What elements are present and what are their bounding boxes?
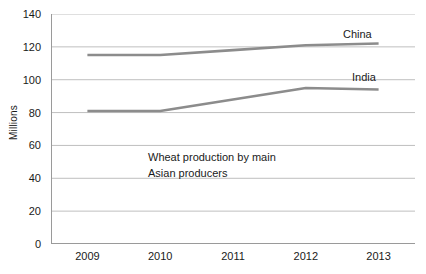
y-tick-label-140: 140 [0,9,46,20]
x-tick-label-2011: 2011 [197,249,270,269]
y-tick-label-120: 120 [0,41,46,52]
plot-area: China India Wheat production by main Asi… [51,14,415,244]
x-tick-label-2013: 2013 [342,249,415,269]
y-tick-label-40: 40 [0,173,46,184]
plot-svg [51,14,415,244]
y-tick-label-0: 0 [0,239,46,250]
chart-annotation: Wheat production by main Asian producers [148,149,276,181]
y-axis-tick-labels: 140 120 100 80 60 40 20 0 [0,0,46,274]
series-line-china [87,44,378,56]
y-tick-label-20: 20 [0,206,46,217]
x-tick-label-2009: 2009 [51,249,124,269]
series-line-india [87,88,378,111]
x-tick-label-2012: 2012 [269,249,342,269]
x-tick-label-2010: 2010 [124,249,197,269]
series-label-china: China [343,28,372,40]
y-tick-label-100: 100 [0,74,46,85]
y-tick-label-60: 60 [0,140,46,151]
series-label-india: India [352,71,376,83]
line-chart: Millions 140 120 100 80 60 40 20 0 [0,0,426,274]
y-tick-label-80: 80 [0,107,46,118]
x-axis-tick-labels: 2009 2010 2011 2012 2013 [51,249,415,269]
